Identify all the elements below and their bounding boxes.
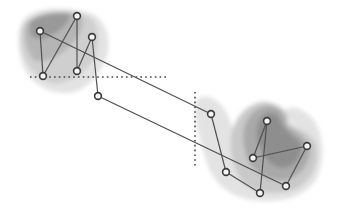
node-K <box>223 169 230 176</box>
left-region <box>18 8 108 93</box>
node-E <box>74 68 81 75</box>
graph-diagram <box>0 0 341 212</box>
node-G <box>208 111 215 118</box>
node-M <box>257 190 264 197</box>
node-B <box>74 13 81 20</box>
node-F <box>95 93 102 100</box>
node-D <box>40 73 47 80</box>
node-J <box>304 143 311 150</box>
node-H <box>264 118 271 125</box>
node-I <box>250 155 257 162</box>
node-C <box>89 34 96 41</box>
node-L <box>283 183 290 190</box>
node-A <box>37 28 44 35</box>
